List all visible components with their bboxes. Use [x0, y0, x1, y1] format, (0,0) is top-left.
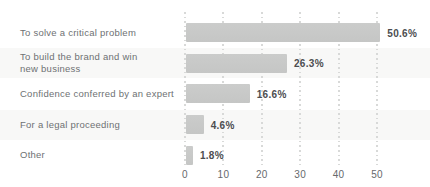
- bar: [186, 146, 193, 165]
- category-label: To solve a critical problem: [20, 27, 180, 39]
- bar: [186, 115, 204, 134]
- category-label: Other: [20, 149, 180, 161]
- bar: [186, 84, 250, 103]
- x-tick-label: 40: [333, 169, 345, 180]
- x-tick-label: 30: [294, 169, 306, 180]
- category-label: Confidence conferred by an expert: [20, 88, 180, 100]
- bar: [186, 23, 380, 42]
- x-tick-label: 0: [182, 169, 188, 180]
- value-label: 26.3%: [294, 58, 324, 69]
- category-label: To build the brand and winnew business: [20, 51, 180, 75]
- value-label: 1.8%: [200, 150, 224, 161]
- x-tick-label: 20: [256, 169, 268, 180]
- value-label: 4.6%: [211, 119, 235, 130]
- value-label: 50.6%: [387, 27, 417, 38]
- bar: [186, 54, 287, 73]
- value-label: 16.6%: [257, 88, 287, 99]
- category-label: For a legal proceeding: [20, 119, 180, 131]
- x-tick-label: 10: [218, 169, 230, 180]
- x-tick-label: 50: [371, 169, 383, 180]
- bar-chart: 01020304050To solve a critical problem50…: [0, 0, 430, 187]
